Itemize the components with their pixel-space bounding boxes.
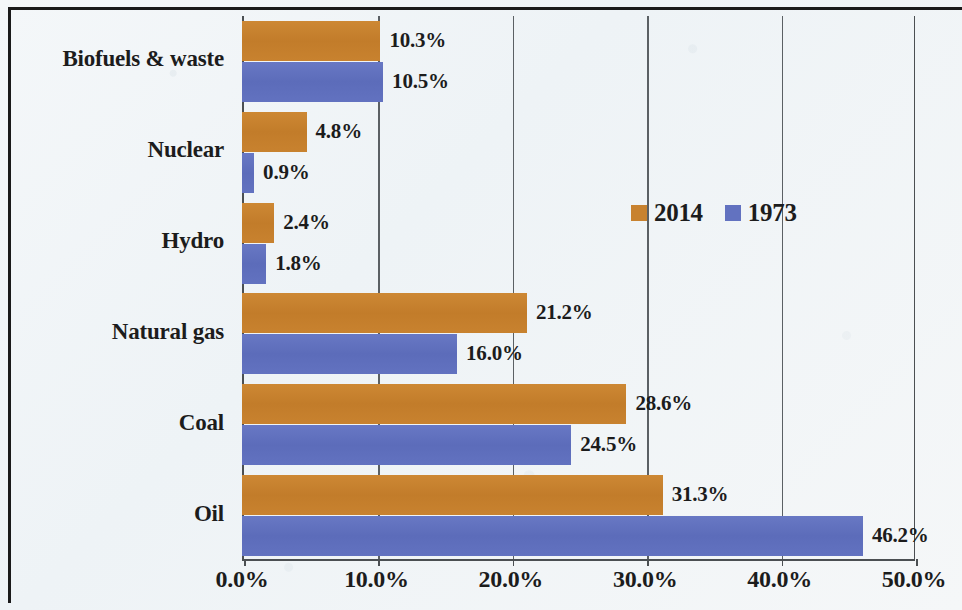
legend-swatch-2014: [631, 205, 647, 221]
legend-entry-2014[interactable]: 2014: [631, 200, 703, 225]
legend-entry-1973[interactable]: 1973: [725, 200, 797, 225]
category-label-biofuels-waste: Biofuels & waste: [62, 46, 224, 72]
x-tick-label: 0.0%: [216, 566, 269, 593]
bar-1973-coal: [242, 425, 571, 465]
bar-1973-biofuels-waste: [242, 62, 383, 102]
chart-legend: 20141973: [631, 200, 797, 225]
bar-value-label: 10.3%: [389, 28, 446, 53]
legend-label: 2014: [654, 200, 703, 225]
bar-value-label: 46.2%: [872, 523, 929, 548]
legend-swatch-1973: [725, 205, 741, 221]
category-label-nuclear: Nuclear: [147, 137, 224, 163]
value-axis-labels: 0.0%10.0%20.0%30.0%40.0%50.0%: [242, 566, 915, 606]
category-label-oil: Oil: [194, 501, 224, 527]
bar-1973-natural-gas: [242, 334, 457, 374]
bar-1973-nuclear: [242, 153, 254, 193]
category-label-coal: Coal: [179, 410, 224, 436]
bars-layer: 10.3%10.5%4.8%0.9%2.4%1.8%21.2%16.0%28.6…: [242, 16, 915, 561]
bar-2014-biofuels-waste: [242, 21, 380, 61]
bar-2014-coal: [242, 384, 626, 424]
bar-value-label: 4.8%: [316, 119, 362, 144]
bar-2014-nuclear: [242, 112, 307, 152]
category-axis-labels: Biofuels & wasteNuclearHydroNatural gasC…: [0, 16, 232, 561]
bar-1973-hydro: [242, 244, 266, 284]
legend-label: 1973: [748, 200, 797, 225]
bar-1973-oil: [242, 516, 863, 556]
gridline-50.0%: [916, 16, 918, 559]
bar-value-label: 10.5%: [392, 69, 449, 94]
bar-2014-oil: [242, 475, 663, 515]
axis-tick: [916, 559, 918, 566]
bar-value-label: 24.5%: [580, 432, 637, 457]
bar-value-label: 0.9%: [263, 160, 309, 185]
x-tick-label: 10.0%: [344, 566, 409, 593]
x-tick-label: 20.0%: [479, 566, 544, 593]
category-label-hydro: Hydro: [162, 228, 224, 254]
page-frame-top-rule: [8, 7, 962, 10]
category-label-natural-gas: Natural gas: [112, 319, 224, 345]
bar-value-label: 28.6%: [635, 391, 692, 416]
bar-2014-natural-gas: [242, 293, 527, 333]
x-tick-label: 40.0%: [747, 566, 812, 593]
bar-value-label: 16.0%: [466, 341, 523, 366]
bar-value-label: 1.8%: [275, 251, 321, 276]
bar-value-label: 2.4%: [283, 210, 329, 235]
x-tick-label: 30.0%: [613, 566, 678, 593]
bar-2014-hydro: [242, 203, 274, 243]
x-tick-label: 50.0%: [882, 566, 947, 593]
bar-chart: 10.3%10.5%4.8%0.9%2.4%1.8%21.2%16.0%28.6…: [0, 0, 962, 610]
bar-value-label: 31.3%: [672, 482, 729, 507]
bar-value-label: 21.2%: [536, 300, 593, 325]
